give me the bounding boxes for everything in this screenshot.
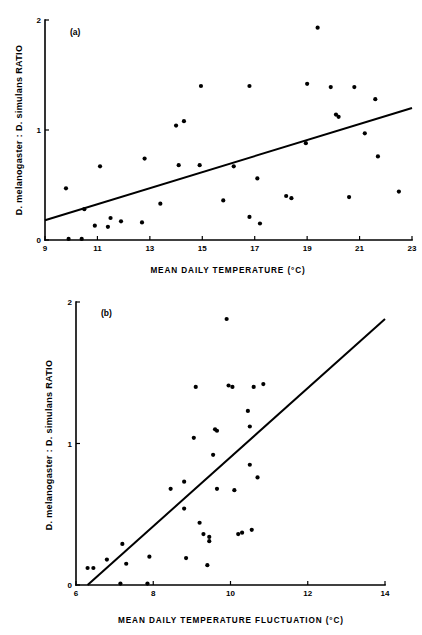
data-point [215,487,219,491]
data-point [66,237,70,241]
data-point [230,385,234,389]
data-point [147,555,151,559]
regression-line [88,319,385,585]
data-point [174,124,178,128]
data-point [98,164,102,168]
data-point [182,119,186,123]
x-tick-label: 12 [303,589,312,598]
data-point [337,115,341,119]
x-tick-label: 23 [408,244,417,253]
data-point [329,85,333,89]
data-point [240,531,244,535]
panel-b-plot: 012 68101214 (b) MEAN DAILY TEMPERATURE … [0,285,422,635]
data-point [93,224,97,228]
x-tick-label: 21 [355,244,364,253]
figure-container: 012 911131517192123 (a) MEAN DAILY TEMPE… [0,0,422,635]
data-point [255,475,259,479]
data-point [207,539,211,543]
data-point [221,198,225,202]
y-tick-label: 0 [68,581,73,590]
data-point [226,383,230,387]
x-tick-label: 6 [74,589,79,598]
data-point [182,480,186,484]
y-tick-label: 1 [68,440,73,449]
x-tick-label: 10 [226,589,235,598]
y-tick-label: 2 [68,298,73,307]
data-point [64,186,68,190]
data-point [184,556,188,560]
x-tick-label: 11 [93,244,102,253]
y-axis-tick-labels: 012 [37,16,42,245]
data-point [205,563,209,567]
regression-line [45,108,412,220]
data-point [85,566,89,570]
data-point [373,97,377,101]
data-point [198,521,202,525]
data-point [199,84,203,88]
x-tick-label: 9 [43,244,48,253]
data-point [120,542,124,546]
y-axis-title: D. melanogaster : D. simulans RATIO [44,360,54,531]
data-point [289,196,293,200]
data-point [250,528,254,532]
data-point [232,164,236,168]
data-point [252,385,256,389]
data-point [236,532,240,536]
data-point [145,581,149,585]
data-point [284,194,288,198]
data-point [198,163,202,167]
data-point [248,463,252,467]
y-axis-tick-labels: 012 [68,298,73,590]
data-point [246,409,250,413]
data-point [106,225,110,229]
panel-a-axes [45,20,412,240]
data-point [247,215,251,219]
data-point [363,131,367,135]
x-tick-label: 17 [250,244,259,253]
panel-b: 012 68101214 (b) MEAN DAILY TEMPERATURE … [0,285,422,635]
y-tick-label: 0 [37,236,42,245]
data-point [108,216,112,220]
data-point [158,202,162,206]
data-point [211,453,215,457]
data-point [261,382,265,386]
data-point [232,488,236,492]
x-tick-label: 15 [198,244,207,253]
data-point [397,190,401,194]
panel-a: 012 911131517192123 (a) MEAN DAILY TEMPE… [0,0,422,290]
data-point [376,154,380,158]
data-point [82,207,86,211]
data-point [105,557,109,561]
y-tick-label: 2 [37,16,42,25]
data-point [316,26,320,30]
data-point [215,429,219,433]
data-point [124,562,128,566]
data-point [258,221,262,225]
data-point [140,220,144,224]
panel-a-plot: 012 911131517192123 (a) MEAN DAILY TEMPE… [0,0,422,290]
data-point [201,532,205,536]
x-tick-label: 13 [145,244,154,253]
panel-a-tag: (a) [70,27,81,37]
data-point [91,566,95,570]
data-point [177,163,181,167]
y-tick-label: 1 [37,126,42,135]
data-point [192,436,196,440]
data-point [255,176,259,180]
data-point [225,317,229,321]
x-axis-title: MEAN DAILY TEMPERATURE FLUCTUATION (°C) [118,616,344,625]
x-tick-label: 14 [381,589,390,598]
x-tick-label: 8 [151,589,156,598]
data-point [247,84,251,88]
x-tick-label: 19 [303,244,312,253]
data-point [352,85,356,89]
x-axis-tick-labels: 911131517192123 [43,244,417,253]
x-axis-title: MEAN DAILY TEMPERATURE (°C) [150,266,305,275]
data-point [248,424,252,428]
data-point [80,237,84,241]
y-axis-title: D. melanogaster : D. simulans RATIO [14,45,24,216]
data-point [304,141,308,145]
data-point [194,385,198,389]
data-point [305,82,309,86]
x-axis-tick-labels: 68101214 [74,589,390,598]
